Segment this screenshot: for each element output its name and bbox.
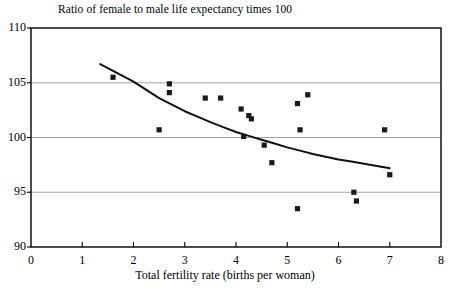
chart-container: Ratio of female to male life expectancy …: [0, 0, 450, 293]
data-point: [269, 160, 274, 165]
x-axis-tick-label: 8: [431, 253, 450, 268]
data-point: [354, 198, 359, 203]
x-axis-tick-label: 6: [329, 253, 349, 268]
data-point: [295, 206, 300, 211]
x-axis-tick-label: 2: [124, 253, 144, 268]
data-point: [382, 127, 387, 132]
data-point: [218, 95, 223, 100]
data-point: [297, 127, 302, 132]
data-point: [157, 127, 162, 132]
data-point: [203, 95, 208, 100]
y-axis-tick-label: 100: [0, 130, 26, 145]
data-point: [351, 190, 356, 195]
y-axis-tick-label: 90: [0, 239, 26, 254]
data-point: [249, 116, 254, 121]
data-point: [167, 90, 172, 95]
trend-line: [100, 64, 390, 168]
data-point: [305, 92, 310, 97]
data-point: [387, 172, 392, 177]
x-axis-tick-label: 1: [72, 253, 92, 268]
gridlines-group: [31, 83, 441, 193]
x-axis-tick-label: 5: [277, 253, 297, 268]
trend-line-group: [100, 64, 390, 168]
data-points-group: [110, 75, 392, 212]
y-axis-tick-label: 95: [0, 184, 26, 199]
x-axis-tick-label: 4: [226, 253, 246, 268]
x-axis-tick-label: 7: [380, 253, 400, 268]
scatter-plot-svg: [0, 0, 450, 293]
data-point: [262, 143, 267, 148]
data-point: [241, 134, 246, 139]
data-point: [295, 101, 300, 106]
data-point: [110, 75, 115, 80]
x-axis-tick-label: 0: [21, 253, 41, 268]
y-axis-tick-label: 110: [0, 20, 26, 35]
x-axis-title: Total fertility rate (births per woman): [0, 268, 450, 283]
data-point: [167, 81, 172, 86]
data-point: [239, 106, 244, 111]
x-axis-tick-label: 3: [175, 253, 195, 268]
y-axis-tick-label: 105: [0, 75, 26, 90]
